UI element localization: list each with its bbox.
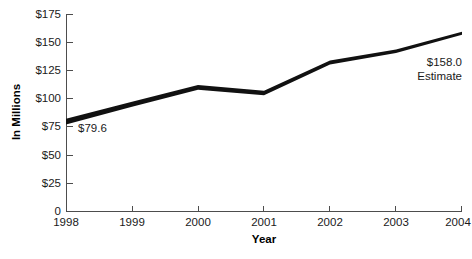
y-tick-label-50: $50 xyxy=(42,149,61,161)
y-tick-label-100: $100 xyxy=(35,92,61,104)
y-axis-title: In Millions xyxy=(10,84,22,140)
y-tick-label-175: $175 xyxy=(35,8,61,20)
y-tick-label-125: $125 xyxy=(35,64,61,76)
series-line-in-millions xyxy=(66,32,462,125)
x-tick-label-2002: 2002 xyxy=(317,216,343,228)
line-chart: In Millions $175 $150 $125 $100 $75 $50 … xyxy=(0,0,472,259)
x-axis-title: Year xyxy=(252,233,277,245)
end-value-label: $158.0 xyxy=(427,56,462,68)
x-tick-label-1999: 1999 xyxy=(119,216,145,228)
x-tick-label-2000: 2000 xyxy=(185,216,211,228)
y-tick-label-75: $75 xyxy=(42,120,61,132)
x-tick-label-2001: 2001 xyxy=(251,216,277,228)
y-tick-label-150: $150 xyxy=(35,36,61,48)
x-tick-label-2004: 2004 xyxy=(445,216,471,228)
x-tick-label-1998: 1998 xyxy=(53,216,79,228)
chart-canvas: In Millions $175 $150 $125 $100 $75 $50 … xyxy=(0,0,472,259)
x-tick-label-2003: 2003 xyxy=(383,216,409,228)
y-tick-label-25: $25 xyxy=(42,177,61,189)
start-value-label: $79.6 xyxy=(78,122,107,134)
end-qualifier-label: Estimate xyxy=(417,70,462,82)
